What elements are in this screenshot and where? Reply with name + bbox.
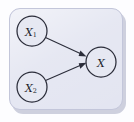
diagram-canvas: X1 X2 X [0, 0, 134, 122]
node-x2[interactable]: X2 [17, 72, 47, 102]
arrow-head-x1-to-x [79, 50, 87, 56]
node-x[interactable]: X [86, 47, 116, 77]
edge-x2-to-x [46, 63, 87, 81]
graph-svg: X1 X2 X [0, 0, 134, 122]
node-x2-subscript: 2 [33, 87, 37, 95]
arrow-head-x2-to-x [79, 63, 87, 69]
edge-line-x2-to-x [46, 64, 84, 81]
edge-x1-to-x [46, 38, 87, 57]
node-x-label: X [96, 56, 106, 69]
edge-line-x1-to-x [46, 38, 84, 56]
node-x-base: X [96, 56, 106, 69]
node-x1-subscript: 1 [33, 31, 37, 39]
node-x1[interactable]: X1 [17, 16, 47, 46]
